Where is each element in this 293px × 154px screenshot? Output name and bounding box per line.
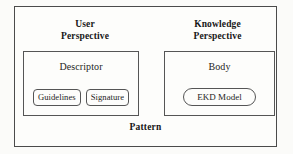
ekd-model-node: EKD Model <box>183 88 256 107</box>
descriptor-box: Descriptor Guidelines Signature <box>23 51 139 116</box>
pattern-label: Pattern <box>15 122 276 132</box>
user-perspective-label: User Perspective <box>23 19 147 42</box>
descriptor-items: Guidelines Signature <box>24 89 138 107</box>
descriptor-label: Descriptor <box>24 61 138 72</box>
signature-node: Signature <box>86 89 129 107</box>
user-perspective-label-line1: User <box>75 19 95 29</box>
body-label: Body <box>165 61 274 72</box>
body-box: Body EKD Model <box>164 51 275 116</box>
knowledge-perspective-label-line1: Knowledge <box>194 19 241 29</box>
pattern-outer-box: User Perspective Descriptor Guidelines S… <box>14 6 277 147</box>
user-perspective-label-line2: Perspective <box>23 31 147 43</box>
knowledge-perspective-label: Knowledge Perspective <box>159 19 276 42</box>
diagram-canvas: User Perspective Descriptor Guidelines S… <box>0 0 293 154</box>
body-items: EKD Model <box>165 88 274 107</box>
guidelines-node: Guidelines <box>33 89 81 107</box>
knowledge-perspective-label-line2: Perspective <box>159 31 276 43</box>
